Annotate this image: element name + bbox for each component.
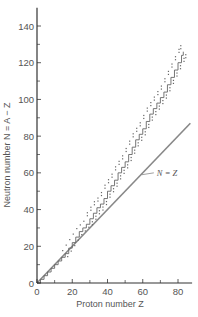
nuclide-dot: [180, 45, 181, 46]
nuclide-dot: [116, 183, 117, 184]
nuclide-dot: [169, 87, 170, 88]
nuclide-dot: [147, 111, 148, 112]
nuclide-dot: [116, 186, 117, 187]
nuclide-dot: [101, 195, 102, 196]
nuclide-dot: [141, 137, 142, 138]
nuclide-dot: [69, 239, 70, 240]
nuclide-dot: [134, 150, 135, 151]
nuclide-dot: [161, 85, 162, 86]
nuclide-dot: [143, 115, 144, 116]
nuclide-dot: [175, 56, 176, 57]
nuclide-dot: [73, 234, 74, 235]
nuclide-dot: [111, 174, 112, 175]
nuclide-dot: [168, 74, 169, 75]
nuclide-dot: [155, 111, 156, 112]
nuclide-dot: [180, 48, 181, 49]
nuclide-dot: [178, 49, 179, 50]
nuclide-dot: [178, 52, 179, 53]
nuclide-dot: [104, 185, 105, 186]
nuclide-dot: [109, 194, 110, 195]
nuclide-dot: [152, 117, 153, 118]
nuclide-dot: [140, 125, 141, 126]
nuclide-dot: [78, 240, 79, 241]
nuclide-dot: [106, 201, 107, 202]
nuclide-dot: [145, 131, 146, 132]
annotations: N = Z: [142, 168, 178, 178]
annotation-leader: [142, 173, 154, 175]
nuclide-dot: [95, 216, 96, 217]
nuclide-dot: [87, 212, 88, 213]
nuclide-dot: [185, 57, 186, 58]
nuclide-dot: [141, 140, 142, 141]
nuclide-dot: [113, 191, 114, 192]
x-tick-label: 0: [34, 286, 39, 297]
nuclide-dot: [71, 251, 72, 252]
nuclide-dot: [166, 97, 167, 98]
nuclide-dot: [176, 72, 177, 73]
nuclide-dot: [88, 227, 89, 228]
nuclide-dot: [171, 66, 172, 67]
nuclide-dot: [106, 204, 107, 205]
x-axis-label: Proton number Z: [76, 299, 144, 309]
nuclide-dot: [92, 221, 93, 222]
nuclide-dot: [97, 200, 98, 201]
axes: 020406080020406080100120140: [18, 8, 192, 297]
nuclide-dot: [108, 179, 109, 180]
y-tick-label: 40: [23, 204, 34, 215]
nuclide-dot: [183, 61, 184, 62]
nuclide-dot: [154, 100, 155, 101]
nuclide-dot: [95, 219, 96, 220]
n-equals-z-line: [37, 123, 190, 283]
nuclide-dot: [138, 142, 139, 143]
nuclide-dot: [155, 114, 156, 115]
x-tick-label: 40: [102, 286, 113, 297]
nuclide-dot: [148, 127, 149, 128]
nuclide-dot: [119, 161, 120, 162]
y-tick-label: 60: [23, 167, 34, 178]
nuclide-dot: [126, 151, 127, 152]
nuclide-dot: [150, 105, 151, 106]
nuclide-dot: [180, 65, 181, 66]
x-tick-label: 20: [67, 286, 78, 297]
nuclide-dot: [129, 141, 130, 142]
nuclide-dot: [111, 177, 112, 178]
nuclide-dot: [140, 122, 141, 123]
nuclide-dot: [108, 182, 109, 183]
nuclide-dot: [67, 256, 68, 257]
nuclide-dot: [148, 124, 149, 125]
nuclide-dot: [159, 106, 160, 107]
nuclide-dot: [183, 58, 184, 59]
y-tick-label: 140: [18, 21, 34, 32]
nuclide-dot: [90, 207, 91, 208]
nuclide-dot: [185, 54, 186, 55]
nuclide-dot: [99, 213, 100, 214]
nuclide-dot: [87, 215, 88, 216]
chart: 020406080020406080100120140 Proton numbe…: [0, 0, 198, 317]
nuclide-dot: [92, 224, 93, 225]
x-tick-label: 60: [137, 286, 148, 297]
nuclide-dot: [180, 68, 181, 69]
nuclide-dot: [168, 71, 169, 72]
nuclide-dot: [113, 188, 114, 189]
nuclide-dot: [173, 80, 174, 81]
y-tick-label: 0: [29, 278, 34, 289]
nuclide-dot: [102, 209, 103, 210]
nuclide-dot: [131, 157, 132, 158]
nuclide-dot: [102, 206, 103, 207]
nuclide-dot: [99, 210, 100, 211]
nuclide-dot: [120, 175, 121, 176]
nuclide-dot: [161, 88, 162, 89]
nuclide-dot: [175, 59, 176, 60]
nuclide-dot: [147, 108, 148, 109]
nuclide-dot: [162, 103, 163, 104]
nuclide-dot: [94, 201, 95, 202]
nuclide-dot: [119, 164, 120, 165]
nuclide-dot: [150, 102, 151, 103]
nuclide-dot: [83, 221, 84, 222]
nuclide-dot: [127, 167, 128, 168]
nuclide-dot: [101, 192, 102, 193]
nuclide-dot: [129, 144, 130, 145]
nuclide-dot: [169, 90, 170, 91]
nuclide-dot: [97, 197, 98, 198]
nuclide-dot: [131, 160, 132, 161]
